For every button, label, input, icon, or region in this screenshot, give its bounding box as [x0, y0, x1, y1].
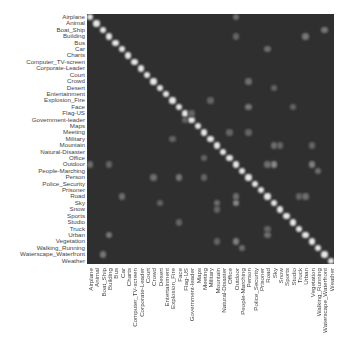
correlation-cell — [233, 33, 239, 39]
correlation-cell — [214, 238, 220, 244]
correlation-cell — [271, 85, 277, 91]
diagonal-cell — [315, 245, 321, 251]
y-tick-label: Weather — [62, 258, 85, 265]
correlation-cell — [119, 193, 125, 199]
diagonal-cell — [106, 33, 112, 39]
diagonal-cell — [290, 219, 296, 225]
diagonal-cell — [195, 123, 201, 129]
diagonal-cell — [188, 117, 194, 123]
correlation-cell — [233, 200, 239, 206]
diagonal-cell — [220, 149, 226, 155]
correlation-cell — [264, 226, 270, 232]
x-tick-label: Bus — [112, 268, 118, 279]
correlation-cell — [290, 104, 296, 110]
correlation-cell — [106, 161, 112, 167]
correlation-cell — [100, 251, 106, 257]
diagonal-cell — [309, 238, 315, 244]
correlation-cell — [264, 161, 270, 167]
correlation-cell — [233, 238, 239, 244]
diagonal-cell — [163, 91, 169, 97]
correlation-cell — [201, 174, 207, 180]
correlation-cell — [296, 193, 302, 199]
correlation-cell — [321, 27, 327, 33]
diagonal-cell — [321, 251, 327, 257]
diagonal-cell — [277, 206, 283, 212]
correlation-cell — [106, 232, 112, 238]
diagonal-cell — [100, 27, 106, 33]
diagonal-cell — [258, 187, 264, 193]
correlation-cell — [226, 129, 232, 135]
x-tick-label: Road — [264, 268, 270, 283]
correlation-cell — [264, 232, 270, 238]
correlation-cell — [233, 14, 239, 20]
correlation-cell — [315, 168, 321, 174]
correlation-cell — [87, 161, 93, 167]
diagonal-cell — [201, 129, 207, 135]
x-tick-label: Computer_TV-screen — [131, 268, 137, 327]
x-tick-label: Sports — [283, 268, 289, 286]
correlation-heatmap: AirplaneAnimalBoat_ShipBuildingBusCarCha… — [0, 0, 348, 355]
correlation-cell — [169, 136, 175, 142]
correlation-cell — [176, 219, 182, 225]
diagonal-cell — [226, 155, 232, 161]
correlation-cell — [264, 46, 270, 52]
diagonal-cell — [131, 59, 137, 65]
diagonal-cell — [239, 168, 245, 174]
correlation-cell — [277, 142, 283, 148]
diagonal-cell — [176, 104, 182, 110]
diagonal-cell — [283, 213, 289, 219]
x-tick-label: Office — [226, 268, 232, 284]
correlation-cell — [201, 155, 207, 161]
diagonal-cell — [252, 181, 258, 187]
x-tick-label: Animal — [93, 268, 99, 287]
diagonal-cell — [144, 72, 150, 78]
correlation-cell — [182, 117, 188, 123]
correlation-cell — [271, 161, 277, 167]
diagonal-cell — [328, 258, 334, 264]
heatmap-matrix — [87, 14, 334, 264]
correlation-cell — [176, 174, 182, 180]
x-tick-label: Person — [245, 268, 251, 288]
diagonal-cell — [169, 97, 175, 103]
correlation-cell — [214, 206, 220, 212]
x-tick-label: Government-leader — [188, 268, 194, 321]
diagonal-cell — [112, 40, 118, 46]
correlation-cell — [233, 193, 239, 199]
diagonal-cell — [302, 232, 308, 238]
x-tick-label: Explosion_Fire — [169, 268, 175, 309]
correlation-cell — [309, 142, 315, 148]
diagonal-cell — [245, 174, 251, 180]
correlation-cell — [207, 97, 213, 103]
diagonal-cell — [271, 200, 277, 206]
diagonal-cell — [233, 161, 239, 167]
diagonal-cell — [87, 14, 93, 20]
correlation-cell — [150, 174, 156, 180]
correlation-cell — [309, 161, 315, 167]
diagonal-cell — [138, 65, 144, 71]
x-tick-label: Crowd — [150, 268, 156, 286]
x-tick-label: Urban — [302, 268, 308, 285]
diagonal-cell — [150, 78, 156, 84]
correlation-cell — [302, 193, 308, 199]
correlation-cell — [188, 110, 194, 116]
correlation-cell — [157, 200, 163, 206]
diagonal-cell — [157, 85, 163, 91]
correlation-cell — [239, 245, 245, 251]
correlation-cell — [245, 129, 251, 135]
diagonal-cell — [93, 20, 99, 26]
diagonal-cell — [125, 52, 131, 58]
correlation-cell — [245, 104, 251, 110]
diagonal-cell — [119, 46, 125, 52]
diagonal-cell — [214, 142, 220, 148]
diagonal-cell — [296, 226, 302, 232]
correlation-cell — [302, 33, 308, 39]
x-tick-label: Weather — [328, 268, 334, 291]
diagonal-cell — [264, 193, 270, 199]
x-tick-label: Military — [207, 268, 213, 288]
diagonal-cell — [207, 136, 213, 142]
correlation-cell — [245, 78, 251, 84]
x-tick-label: Waterscape_Waterfront — [321, 268, 327, 333]
